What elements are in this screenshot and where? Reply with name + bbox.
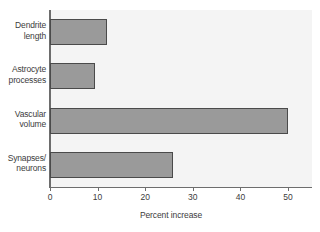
x-tick-label: 0 bbox=[38, 192, 62, 202]
category-label: Synapses/neurons bbox=[0, 153, 46, 174]
x-tick-mark bbox=[145, 187, 146, 191]
category-label: Astrocyteprocesses bbox=[0, 64, 46, 85]
bar bbox=[50, 108, 288, 134]
x-tick-label: 30 bbox=[181, 192, 205, 202]
category-label-line: length bbox=[0, 31, 46, 42]
x-tick-mark bbox=[240, 187, 241, 191]
bar-chart-figure: DendritelengthAstrocyteprocessesVascular… bbox=[0, 0, 320, 232]
category-label: Vascularvolume bbox=[0, 109, 46, 130]
x-tick-label: 20 bbox=[133, 192, 157, 202]
x-tick-label: 40 bbox=[228, 192, 252, 202]
category-label-line: Astrocyte bbox=[0, 64, 46, 75]
bar bbox=[50, 63, 95, 89]
category-label: Dendritelength bbox=[0, 20, 46, 41]
category-label-line: volume bbox=[0, 119, 46, 130]
category-label-line: Synapses/ bbox=[0, 153, 46, 164]
bar bbox=[50, 19, 107, 45]
x-axis-line bbox=[49, 187, 312, 189]
x-tick-label: 10 bbox=[86, 192, 110, 202]
x-tick-mark bbox=[50, 187, 51, 191]
category-label-line: Vascular bbox=[0, 109, 46, 120]
x-axis-title: Percent increase bbox=[0, 210, 320, 220]
bar bbox=[50, 152, 173, 178]
x-tick-mark bbox=[193, 187, 194, 191]
x-tick-mark bbox=[288, 187, 289, 191]
category-label-line: neurons bbox=[0, 163, 46, 174]
category-label-line: Dendrite bbox=[0, 20, 46, 31]
x-tick-mark bbox=[98, 187, 99, 191]
x-tick-label: 50 bbox=[276, 192, 300, 202]
category-label-line: processes bbox=[0, 75, 46, 86]
